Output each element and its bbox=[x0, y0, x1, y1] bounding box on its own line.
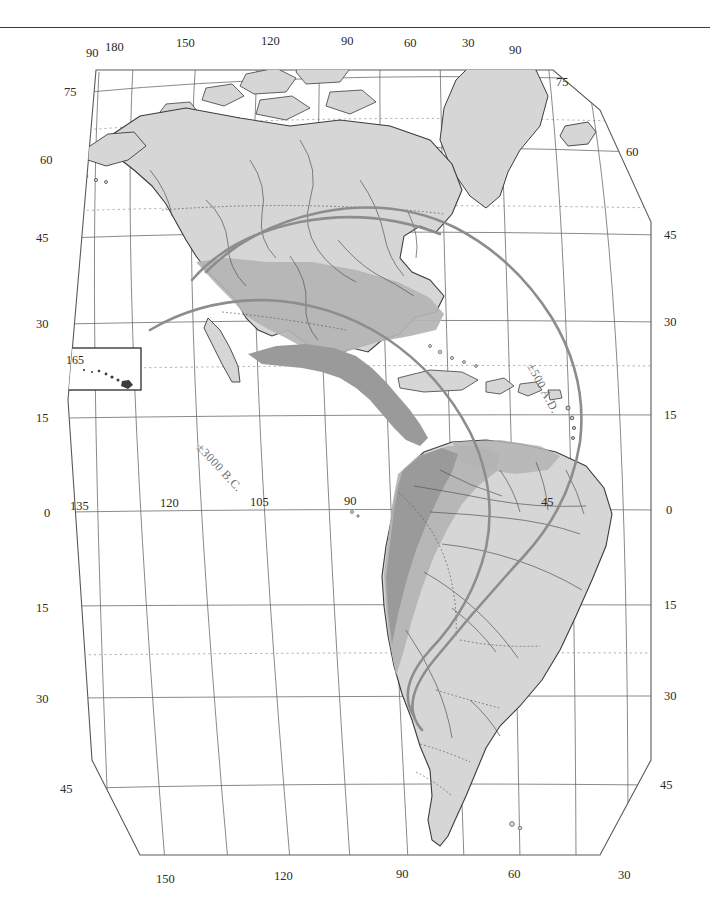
lat-label: 15 bbox=[36, 411, 49, 425]
lon-label: 90 bbox=[396, 867, 409, 881]
lat-label: 0 bbox=[44, 506, 50, 520]
map-figure: 90 180 150 120 90 60 30 90 75 60 45 30 1… bbox=[0, 0, 710, 917]
top-longitude-labels: 90 180 150 120 90 60 30 90 bbox=[86, 34, 522, 60]
lat-label: 0 bbox=[666, 503, 672, 517]
lon-label: 135 bbox=[70, 499, 89, 513]
lon-label: 180 bbox=[105, 40, 124, 54]
map-canvas: 90 180 150 120 90 60 30 90 75 60 45 30 1… bbox=[0, 0, 710, 917]
lat-label: 45 bbox=[60, 782, 73, 796]
lon-label: 90 bbox=[341, 34, 354, 48]
lat-label: 45 bbox=[660, 778, 673, 792]
lat-label: 45 bbox=[36, 231, 49, 245]
lon-label: 90 bbox=[509, 43, 522, 57]
lat-label: 30 bbox=[664, 689, 677, 703]
bottom-longitude-labels: 150 120 90 60 30 bbox=[156, 867, 631, 886]
lat-label: 75 bbox=[556, 75, 569, 89]
lat-label: 30 bbox=[36, 692, 49, 706]
lat-label: 15 bbox=[36, 601, 49, 615]
lon-label: 90 bbox=[344, 494, 357, 508]
lon-label: 105 bbox=[250, 495, 269, 509]
lat-label: 45 bbox=[664, 228, 677, 242]
lat-label: 60 bbox=[40, 153, 53, 167]
inset-longitude-label: 165 bbox=[66, 353, 84, 367]
lon-label: 120 bbox=[261, 34, 280, 48]
lat-label: 30 bbox=[36, 317, 49, 331]
lat-label: 15 bbox=[664, 598, 677, 612]
lat-label: 15 bbox=[664, 408, 677, 422]
lon-label: 150 bbox=[176, 36, 195, 50]
lon-label: 30 bbox=[462, 36, 475, 50]
lon-label: 90 bbox=[86, 46, 99, 60]
lon-label: 45 bbox=[541, 495, 554, 509]
lat-label: 75 bbox=[64, 85, 77, 99]
lat-label: 30 bbox=[664, 315, 677, 329]
lon-label: 60 bbox=[404, 36, 417, 50]
lon-label: 30 bbox=[618, 868, 631, 882]
lon-label: 120 bbox=[160, 496, 179, 510]
lon-label: 120 bbox=[274, 869, 293, 883]
lon-label: 150 bbox=[156, 872, 175, 886]
lon-label: 60 bbox=[508, 867, 521, 881]
lat-label: 60 bbox=[626, 145, 639, 159]
